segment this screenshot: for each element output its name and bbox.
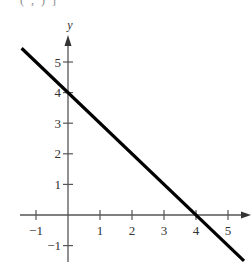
y-axis-label: y	[66, 18, 73, 32]
x-tick-label: −1	[29, 223, 43, 238]
x-axis-arrow-icon	[241, 212, 251, 219]
y-tick-label: 2	[55, 146, 62, 161]
x-tick-label: 3	[161, 223, 168, 238]
y-tick-label: 3	[55, 116, 62, 131]
x-tick-label: 2	[129, 223, 136, 238]
x-tick-label: 5	[225, 223, 232, 238]
y-axis-arrow-icon	[65, 35, 72, 46]
y-tick-label: 5	[55, 55, 62, 70]
y-tick-label: −1	[47, 238, 61, 253]
x-tick-label: 1	[97, 223, 104, 238]
line-graph: y −112345−112345	[0, 0, 251, 269]
x-tick-label: 4	[193, 223, 200, 238]
y-tick-label: 1	[55, 177, 62, 192]
